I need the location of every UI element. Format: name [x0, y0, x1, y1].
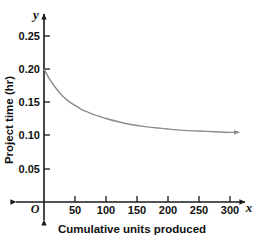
x-tick-label-200: 200: [159, 204, 177, 216]
data-curve-learning: [44, 69, 239, 132]
y-axis-symbol: y: [31, 7, 39, 22]
chart-container: 0.25 0.20 0.15 0.10 0.05 50 100 150 200 …: [0, 0, 270, 240]
x-tick-label-50: 50: [69, 204, 81, 216]
y-tick-label-005: 0.05: [19, 163, 40, 175]
y-tick-label-010: 0.10: [19, 129, 40, 141]
origin-label: O: [31, 202, 40, 216]
y-axis-title: Project time (hr): [3, 76, 15, 164]
learning-curve-chart: 0.25 0.20 0.15 0.10 0.05 50 100 150 200 …: [0, 0, 270, 240]
y-tick-label-025: 0.25: [19, 30, 40, 42]
x-axis-title: Cumulative units produced: [58, 223, 206, 235]
y-tick-label-020: 0.20: [19, 63, 40, 75]
y-tick-label-015: 0.15: [19, 96, 40, 108]
x-tick-label-100: 100: [97, 204, 115, 216]
x-tick-label-250: 250: [190, 204, 208, 216]
x-axis-symbol: x: [245, 200, 253, 215]
x-tick-label-300: 300: [221, 204, 239, 216]
x-tick-label-150: 150: [128, 204, 146, 216]
